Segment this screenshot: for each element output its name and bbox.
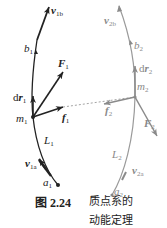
m1-m2-connector xyxy=(63,97,135,107)
particle-m2-dot xyxy=(133,95,136,98)
internal-force-f1-arrow xyxy=(33,107,63,117)
label-v1b: v1b xyxy=(51,5,63,18)
figure-number: 图 2.24 xyxy=(35,197,71,209)
internal-force-f2-arrow xyxy=(104,97,135,104)
label-dr1: dr1 xyxy=(13,92,26,105)
label-F2: F2 xyxy=(144,118,155,131)
label-a1: a1 xyxy=(43,177,52,190)
label-m2: m2 xyxy=(137,81,148,94)
label-L2: L2 xyxy=(112,149,122,162)
label-v1a: v1a xyxy=(25,158,37,171)
label-f1: f1 xyxy=(62,112,69,125)
label-m1: m1 xyxy=(16,113,27,126)
figure-title-line1: 质点系的 xyxy=(89,196,133,207)
label-L1: L1 xyxy=(44,135,54,148)
label-b1: b1 xyxy=(24,43,33,56)
force-F1-arrow xyxy=(33,72,63,117)
velocity-v1b-arrow xyxy=(37,7,49,40)
b1-point xyxy=(34,50,38,54)
label-b2: b2 xyxy=(134,40,143,53)
label-v2b: v2b xyxy=(104,15,116,28)
label-dr2: dr2 xyxy=(139,63,152,76)
label-F1: F1 xyxy=(58,58,69,71)
label-v2a: v2a xyxy=(132,165,144,178)
particle-m1-dot xyxy=(31,115,35,119)
figure-title-line2: 动能定理 xyxy=(89,215,133,226)
velocity-v2b-arrow xyxy=(117,5,122,12)
point-a1-dot xyxy=(56,183,60,187)
label-f2: f2 xyxy=(105,105,112,118)
